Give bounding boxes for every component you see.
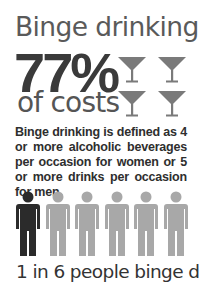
people-caption: 1 in 6 people binge drink	[16, 261, 196, 283]
stat-label: of costs	[17, 87, 119, 119]
definition-text: Binge drinking is defined as 4 or more a…	[15, 125, 187, 200]
person-icon	[105, 191, 129, 259]
martini-glass-icon	[117, 89, 147, 119]
person-icon-highlighted	[16, 191, 40, 259]
infographic-title: Binge drinking	[15, 11, 190, 43]
martini-glass-icon	[157, 55, 187, 85]
martini-glass-icon	[117, 55, 147, 85]
martini-glass-icon	[157, 89, 187, 119]
people-row	[16, 191, 188, 259]
person-icon	[134, 191, 158, 259]
person-icon	[164, 191, 188, 259]
person-icon	[46, 191, 70, 259]
martini-glass-grid	[115, 55, 187, 121]
person-icon	[75, 191, 99, 259]
